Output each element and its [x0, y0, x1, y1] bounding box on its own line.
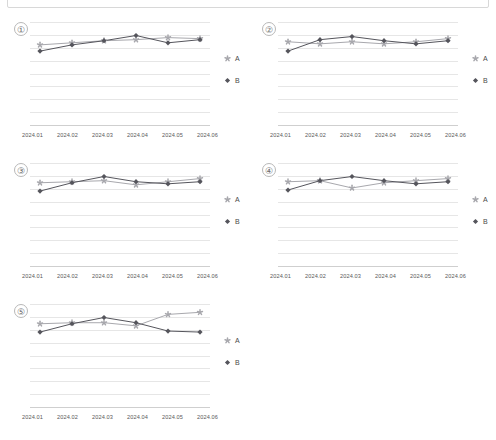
panel-index-5: ⑤: [14, 304, 28, 318]
x-axis-tick-label: 2024.01: [22, 414, 43, 420]
legend-label: B: [235, 218, 240, 225]
diamond-icon: [349, 34, 354, 39]
x-axis-tick-label: 2024.04: [375, 132, 396, 138]
legend-label: B: [483, 218, 488, 225]
x-axis-tick-label: 2024.04: [127, 414, 148, 420]
star-icon: [198, 310, 203, 315]
diamond-icon: [37, 188, 42, 193]
legend-2: AB: [470, 52, 496, 96]
diamond-icon: [222, 75, 233, 86]
x-axis-labels-5: 2024.012024.022024.032024.042024.052024.…: [22, 414, 218, 420]
diamond-icon: [349, 174, 354, 179]
x-axis-tick-label: 2024.01: [270, 132, 291, 138]
legend-item-B[interactable]: B: [470, 215, 496, 227]
x-axis-tick-label: 2024.01: [22, 273, 43, 279]
diamond-icon: [37, 329, 42, 334]
star-icon: [470, 53, 481, 64]
star-icon: [102, 320, 107, 325]
x-axis-tick-label: 2024.02: [305, 132, 326, 138]
plot-area-5: [30, 304, 210, 408]
legend-3: AB: [222, 193, 248, 237]
x-axis-tick-label: 2024.05: [162, 132, 183, 138]
legend-label: B: [235, 77, 240, 84]
x-axis-tick-label: 2024.02: [57, 414, 78, 420]
chart-panel-3: ③ 2024.012024.022024.032024.042024.05202…: [0, 155, 248, 295]
x-axis-tick-label: 2024.06: [197, 414, 218, 420]
x-axis-labels-2: 2024.012024.022024.032024.042024.052024.…: [270, 132, 466, 138]
x-axis-labels-3: 2024.012024.022024.032024.042024.052024.…: [22, 273, 218, 279]
star-icon: [166, 312, 171, 317]
diamond-icon: [225, 77, 230, 82]
x-axis-tick-label: 2024.01: [270, 273, 291, 279]
x-axis-tick-label: 2024.03: [92, 132, 113, 138]
series-line-A: [40, 38, 200, 45]
series-canvas-5: [30, 304, 210, 408]
diamond-icon: [470, 216, 481, 227]
panel-index-3: ③: [14, 163, 28, 177]
chart-panel-4: ④ 2024.012024.022024.032024.042024.05202…: [248, 155, 496, 295]
star-icon: [225, 55, 230, 60]
diamond-icon: [165, 40, 170, 45]
x-axis-tick-label: 2024.01: [22, 132, 43, 138]
x-axis-tick-label: 2024.04: [127, 273, 148, 279]
x-axis-tick-label: 2024.05: [410, 132, 431, 138]
legend-item-B[interactable]: B: [222, 215, 248, 227]
star-icon: [222, 335, 233, 346]
x-axis-tick-label: 2024.04: [375, 273, 396, 279]
diamond-icon: [285, 187, 290, 192]
diamond-icon: [317, 37, 322, 42]
chart-panel-5: ⑤ 2024.012024.022024.032024.042024.05202…: [0, 296, 248, 436]
diamond-icon: [225, 359, 230, 364]
x-axis-tick-label: 2024.05: [410, 273, 431, 279]
series-line-A: [40, 312, 200, 326]
x-axis-labels-1: 2024.012024.022024.032024.042024.052024.…: [22, 132, 218, 138]
plot-area-1: [30, 22, 210, 126]
panel-index-2: ②: [262, 22, 276, 36]
legend-label: A: [235, 55, 240, 62]
star-icon: [473, 196, 478, 201]
x-axis-tick-label: 2024.03: [92, 273, 113, 279]
legend-item-A[interactable]: A: [222, 52, 248, 64]
legend-item-A[interactable]: A: [222, 193, 248, 205]
chart-grid: ① 2024.012024.022024.032024.042024.05202…: [0, 14, 496, 440]
legend-item-A[interactable]: A: [470, 52, 496, 64]
panel-index-1: ①: [14, 22, 28, 36]
legend-item-B[interactable]: B: [222, 74, 248, 86]
legend-item-B[interactable]: B: [222, 356, 248, 368]
diamond-icon: [470, 75, 481, 86]
empty-toolbar-frame: [7, 0, 489, 8]
x-axis-labels-4: 2024.012024.022024.032024.042024.052024.…: [270, 273, 466, 279]
legend-5: AB: [222, 334, 248, 378]
legend-label: A: [483, 55, 488, 62]
legend-label: B: [235, 359, 240, 366]
star-icon: [166, 35, 171, 40]
series-line-B: [288, 37, 448, 52]
star-icon: [470, 194, 481, 205]
plot-area-2: [278, 22, 458, 126]
series-line-B: [40, 318, 200, 333]
star-icon: [350, 185, 355, 190]
diamond-icon: [101, 315, 106, 320]
x-axis-tick-label: 2024.03: [92, 414, 113, 420]
panel-index-4: ④: [262, 163, 276, 177]
legend-label: A: [235, 196, 240, 203]
star-icon: [222, 194, 233, 205]
x-axis-tick-label: 2024.02: [57, 273, 78, 279]
diamond-icon: [285, 49, 290, 54]
star-icon: [38, 321, 43, 326]
legend-item-B[interactable]: B: [470, 74, 496, 86]
legend-item-A[interactable]: A: [470, 193, 496, 205]
chart-panel-1: ① 2024.012024.022024.032024.042024.05202…: [0, 14, 248, 154]
series-canvas-1: [30, 22, 210, 126]
plot-area-4: [278, 163, 458, 267]
legend-1: AB: [222, 52, 248, 96]
diamond-icon: [225, 218, 230, 223]
legend-item-A[interactable]: A: [222, 334, 248, 346]
x-axis-tick-label: 2024.06: [445, 132, 466, 138]
legend-label: B: [483, 77, 488, 84]
diamond-icon: [133, 33, 138, 38]
x-axis-tick-label: 2024.02: [305, 273, 326, 279]
plot-area-3: [30, 163, 210, 267]
star-icon: [225, 196, 230, 201]
star-icon: [38, 42, 43, 47]
